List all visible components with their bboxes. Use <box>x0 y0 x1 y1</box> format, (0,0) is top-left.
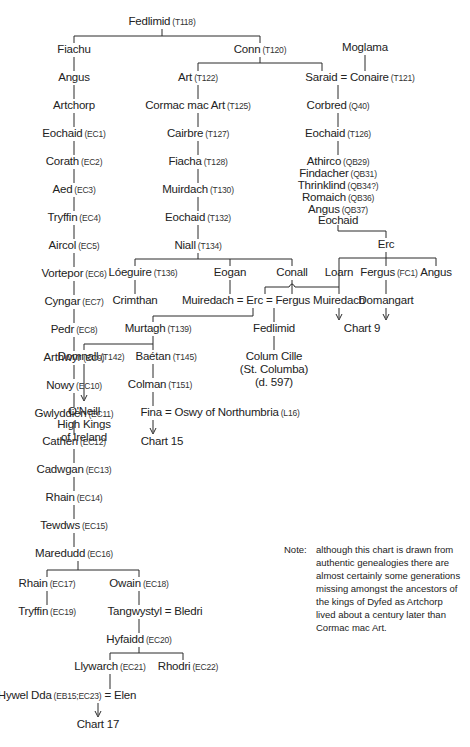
person-name: Fedlimid <box>128 15 170 27</box>
person-ref: (L16) <box>281 408 300 418</box>
person-name: Rhain <box>46 491 75 503</box>
person-name: Corbred <box>307 99 347 111</box>
person-ref: (T151) <box>168 380 192 390</box>
person-niall: Niall(T134) <box>174 239 221 253</box>
group-name-line2: High Kings <box>57 418 111 431</box>
person-ref: (EB15;EC23) <box>54 691 102 701</box>
chart-17-link[interactable]: Chart 17 <box>77 718 120 731</box>
person-death-date: (d. 597) <box>240 376 308 389</box>
person-name: Loarn <box>325 266 353 278</box>
chart-reference[interactable]: Chart 9 <box>344 322 380 334</box>
chart-reference[interactable]: Chart 15 <box>141 435 184 447</box>
person-erc: Erc <box>378 238 395 251</box>
person-name: Eochaid <box>318 214 358 226</box>
person-name: Fiacha <box>168 155 201 167</box>
person-conall: Conall <box>276 266 307 279</box>
person-fina-oswy: Fina = Oswy of Northumbria(L16) <box>140 406 299 420</box>
person-hyfaidd: Hyfaidd(EC20) <box>106 633 171 647</box>
person-name: Crimthan <box>112 294 157 306</box>
person-name: Cairbre <box>167 127 203 139</box>
person-artchorp: Artchorp <box>53 99 95 112</box>
person-name: Nowy <box>46 379 74 391</box>
person-eochaid-ec1: Eochaid(EC1) <box>42 127 105 141</box>
person-name: Angus <box>58 71 90 83</box>
person-cathen: Cathen(EC12) <box>42 435 106 449</box>
person-name: Domangart <box>358 294 413 306</box>
person-fedlimid: Fedlimid(T118) <box>128 15 195 29</box>
person-aed: Aed(EC3) <box>52 183 95 197</box>
person-llywarch: Llywarch(EC21) <box>74 660 146 674</box>
person-name: Corath <box>46 155 79 167</box>
person-cairbre: Cairbre(T127) <box>167 127 229 141</box>
person-name: Artchorp <box>53 99 95 111</box>
person-name: Eogan <box>214 266 246 278</box>
person-aircol: Aircol(EC5) <box>49 239 100 253</box>
note-text: although this chart is drawn from authen… <box>316 543 464 634</box>
person-ref: (EC14) <box>77 493 103 503</box>
person-ref: (QB34?) <box>348 181 379 191</box>
person-tewdws: Tewdws(EC15) <box>40 519 107 533</box>
person-ref: (EC21) <box>120 662 146 672</box>
person-name: Cadwgan <box>37 463 84 475</box>
person-ref: (QB31) <box>351 169 377 179</box>
person-name: Eochaid <box>305 127 345 139</box>
person-pedr: Pedr(EC8) <box>51 323 98 337</box>
person-maredudd: Maredudd(EC16) <box>35 547 113 561</box>
person-tangwystyl-bledri: Tangwystyl = Bledri <box>108 605 203 618</box>
person-crimthan: Crimthan <box>112 294 157 307</box>
person-ref: (EC2) <box>81 157 102 167</box>
person-eochaid-t132: Eochaid(T132) <box>165 211 231 225</box>
person-nowy: Nowy(EC10) <box>46 379 102 393</box>
person-cadwgan: Cadwgan(EC13) <box>37 463 112 477</box>
person-ref: (T125) <box>227 101 251 111</box>
person-colum-cille: Colum Cille (St. Columba) (d. 597) <box>240 350 308 389</box>
person-alias: (St. Columba) <box>240 363 308 376</box>
person-ref: (T136) <box>154 268 178 278</box>
person-tryffin-ec4: Tryffin(EC4) <box>47 211 100 225</box>
person-loeguire: Lóeguire(T136) <box>108 266 177 280</box>
person-name: Fiachu <box>57 43 90 55</box>
person-name: Rhodri <box>158 660 191 672</box>
person-name: Eochaid <box>165 211 205 223</box>
person-ref: (EC18) <box>143 579 169 589</box>
person-angus: Angus <box>58 71 90 84</box>
person-name: Hyfaidd <box>106 633 144 645</box>
person-ref: (Q40) <box>349 101 370 111</box>
person-ref: (EC17) <box>50 579 76 589</box>
person-name: Cathen <box>42 435 78 447</box>
person-ref: (EC15) <box>82 521 108 531</box>
person-name: Maredudd <box>35 547 85 559</box>
person-tryffin-ec19: Tryffin(EC19) <box>18 605 76 619</box>
person-name: Colum Cille <box>240 350 308 363</box>
person-muiredach-r: Muiredach <box>313 294 365 307</box>
person-name: Tryffin <box>18 605 48 617</box>
chart-reference[interactable]: Chart 17 <box>77 718 120 730</box>
person-name: Baétan <box>135 350 170 362</box>
person-ref: (FC1) <box>397 268 418 278</box>
chart-9-link[interactable]: Chart 9 <box>344 322 380 335</box>
person-ref: (EC12) <box>80 437 106 447</box>
person-ref: (EC4) <box>79 213 100 223</box>
person-name: Owain <box>109 577 141 589</box>
person-name: Tangwystyl = Bledri <box>108 605 203 617</box>
person-ref: (EC13) <box>86 465 112 475</box>
person-corbred: Corbred(Q40) <box>307 99 370 113</box>
chart-15-link[interactable]: Chart 15 <box>141 435 184 448</box>
spouse-name: = Elen <box>104 689 136 701</box>
person-ref: (T118) <box>172 17 195 27</box>
person-art: Art(T122) <box>178 71 218 85</box>
person-ref: (T121) <box>391 73 415 83</box>
person-name: Moglama <box>342 41 388 53</box>
person-name: Muiredach <box>313 294 365 306</box>
person-name: Tewdws <box>40 519 80 531</box>
person-owain: Owain(EC18) <box>109 577 168 591</box>
person-rhain-ec17: Rhain(EC17) <box>19 577 76 591</box>
person-ref: (EC7) <box>82 297 103 307</box>
person-name: Pedr <box>51 323 75 335</box>
person-eochaid-t126: Eochaid(T126) <box>305 127 371 141</box>
person-ref: (EC6) <box>85 269 106 279</box>
person-ref: (T126) <box>347 129 371 139</box>
genealogy-chart: Fedlimid(T118) Fiachu Conn(T120) Moglama… <box>0 0 470 747</box>
person-rhain-ec14: Rhain(EC14) <box>46 491 103 505</box>
person-ref: (T130) <box>210 185 234 195</box>
